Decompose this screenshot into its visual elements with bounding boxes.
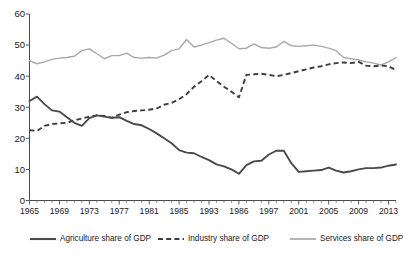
x-axis-tick-label: 1985	[170, 206, 189, 216]
y-axis-tick-label: 50	[14, 39, 25, 50]
chart-legend: Agriculture share of GDPIndustry share o…	[30, 234, 403, 243]
x-axis-tick-label: 1969	[50, 206, 69, 216]
y-axis-tick-label: 60	[14, 8, 25, 19]
legend-label: Services share of GDP	[320, 234, 403, 243]
x-axis-tick-label: 1997	[259, 206, 278, 216]
y-axis-tick-label: 0	[20, 195, 25, 206]
y-axis-tick-label: 20	[14, 133, 25, 144]
x-axis-tick-label: 2005	[319, 206, 338, 216]
y-axis-tick-label: 10	[14, 164, 25, 175]
y-axis-tick-label: 40	[14, 71, 25, 82]
x-axis-tick-label: 2001	[289, 206, 308, 216]
series-line-services	[30, 38, 397, 65]
x-axis-tick-marks	[30, 201, 397, 205]
x-axis-tick-label: 2013	[379, 206, 398, 216]
series-line-industry	[30, 62, 397, 131]
y-axis-tick-marks	[26, 14, 30, 201]
y-axis-tick-labels: 0102030405060	[14, 8, 25, 206]
x-axis-tick-label: 2009	[349, 206, 368, 216]
legend-label: Agriculture share of GDP	[60, 234, 152, 243]
x-axis-tick-label: 1977	[110, 206, 129, 216]
x-axis-tick-label: 1965	[20, 206, 39, 216]
series-line-agriculture	[30, 97, 397, 174]
x-axis-tick-labels: 1965196919731977198119851993198619972001…	[20, 206, 398, 216]
chart-container: 0102030405060 19651969197319771981198519…	[0, 0, 403, 254]
x-axis-tick-label: 1973	[80, 206, 99, 216]
legend-label: Industry share of GDP	[188, 234, 270, 243]
y-axis-tick-label: 30	[14, 102, 25, 113]
x-axis-tick-label: 1993	[199, 206, 218, 216]
x-axis-tick-label: 1981	[140, 206, 159, 216]
x-axis-tick-label: 1986	[229, 206, 248, 216]
gdp-share-line-chart: 0102030405060 19651969197319771981198519…	[0, 0, 403, 254]
